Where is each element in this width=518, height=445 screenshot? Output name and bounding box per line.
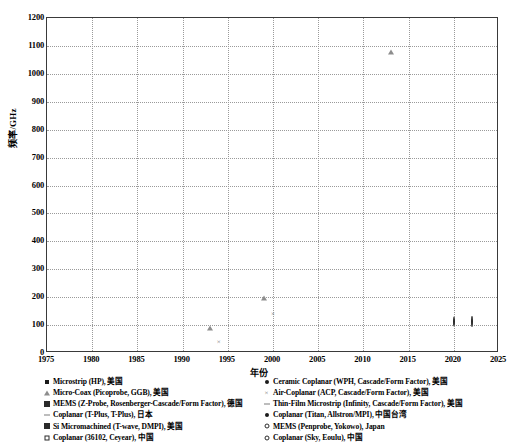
legend-label: Coplanar (Titan, Allstron/MPI), 中国台湾 [273,411,407,419]
legend-item: Coplanar (36102, Ceyear), 中国 [42,432,267,443]
y-tick-label: 700 [32,153,44,162]
x-tick-label: 1985 [116,355,156,364]
gridline-horizontal [47,130,497,131]
legend-marker [262,411,271,420]
legend-marker [42,433,51,442]
x-tick-label: 2000 [252,355,292,364]
chart-page: 频率/GHz 010020030040050060070080090010001… [0,0,518,445]
legend-marker [262,422,271,431]
gridline-horizontal [47,213,497,214]
hatched-square-marker-icon [44,423,50,429]
legend-label: Microstrip (HP), 美国 [53,378,123,386]
data-point [388,42,394,49]
y-tick-label: 1200 [28,13,44,22]
data-point: × [217,338,221,345]
y-tick-label: 200 [32,292,44,301]
legend-marker [42,377,51,386]
legend-item: Thin-Film Microstrip (Infinity, Cascade/… [262,398,518,409]
legend-marker [42,422,51,431]
y-tick-label: 600 [32,181,44,190]
x-tick-label: 2025 [478,355,518,364]
open-triangle-marker-icon [44,390,50,395]
x-tick-label: 1990 [162,355,202,364]
legend-item: Coplanar (T-Plus, T-Plus), 日本 [42,410,267,421]
data-point [261,288,267,295]
y-axis-title: 频率/GHz [6,108,19,148]
y-tick-label: 1100 [28,41,44,50]
legend-item: Coplanar (Titan, Allstron/MPI), 中国台湾 [262,410,518,421]
hatched-square-marker-icon [44,401,50,407]
gridline-vertical [454,18,455,351]
data-point [453,319,455,326]
gridline-vertical [228,18,229,351]
open-circle-marker-icon [471,317,473,327]
legend-marker [42,388,51,397]
gridline-horizontal [47,158,497,159]
gridline-horizontal [47,102,497,103]
filled-circle-marker-icon [265,380,269,384]
legend-item: ×Air-Coplanar (ACP, Cascade/Form Factor)… [262,387,518,398]
x-tick-label: 1975 [26,355,66,364]
gridline-horizontal [47,74,497,75]
x-tick-label: 1980 [71,355,111,364]
y-tick-label: 1000 [28,69,44,78]
x-tick-label: 2015 [388,355,428,364]
legend-label: Coplanar (36102, Ceyear), 中国 [53,434,154,442]
legend-marker: × [262,388,271,397]
x-cross-marker-icon: × [217,337,221,345]
filled-square-marker-icon [45,380,49,384]
y-tick-label: 800 [32,125,44,134]
legend-item: Micro-Coax (Picoprobe, GGB), 美国 [42,387,267,398]
legend-label: Coplanar (Sky, Eoulu), 中国 [273,434,363,442]
legend-item: MEMS (Z-Probe, Rosenberger-Cascade/Form … [42,398,267,409]
gridline-horizontal [47,241,497,242]
legend-label: Micro-Coax (Picoprobe, GGB), 美国 [53,389,169,397]
open-circle-marker-icon [264,435,269,440]
legend-item: Microstrip (HP), 美国 [42,376,267,387]
legend-label: Air-Coplanar (ACP, Cascade/Form Factor),… [273,389,429,397]
legend: Microstrip (HP), 美国Micro-Coax (Picoprobe… [0,376,518,445]
gridline-horizontal [47,269,497,270]
legend-label: MEMS (Z-Probe, Rosenberger-Cascade/Form … [53,400,243,408]
dash-marker-icon [264,403,270,404]
legend-marker [262,433,271,442]
y-tick-label: 100 [32,320,44,329]
gridline-vertical [137,18,138,351]
legend-label: MEMS (Penprobe, Yokowo), Japan [273,423,385,431]
legend-marker [262,377,271,386]
legend-column-left: Microstrip (HP), 美国Micro-Coax (Picoprobe… [42,376,267,443]
gridline-vertical [318,18,319,351]
gridline-vertical [183,18,184,351]
open-circle-marker-icon [453,317,455,327]
y-tick-label: 400 [32,236,44,245]
filled-circle-marker-icon [265,413,269,417]
legend-item: Si Micromachined (T-wave, DMPI), 美国 [42,421,267,432]
gridline-vertical [363,18,364,351]
open-triangle-marker-icon [261,287,267,300]
x-tick-label: 1995 [207,355,247,364]
open-triangle-marker-icon [207,318,213,331]
x-tick-label: 2020 [433,355,473,364]
data-point [471,319,473,326]
x-tick-label: 2005 [297,355,337,364]
legend-label: Coplanar (T-Plus, T-Plus), 日本 [53,411,153,419]
dash-marker-icon [44,415,50,416]
legend-marker [42,411,51,420]
legend-marker [42,399,51,408]
legend-item: MEMS (Penprobe, Yokowo), Japan [262,421,518,432]
gridline-horizontal [47,186,497,187]
legend-label: Thin-Film Microstrip (Infinity, Cascade/… [273,400,463,408]
gridline-horizontal [47,325,497,326]
gridline-vertical [273,18,274,351]
plot-area: ×× [46,17,498,352]
legend-marker [262,399,271,408]
x-tick-label: 2010 [342,355,382,364]
gridline-vertical [409,18,410,351]
y-tick-label: 500 [32,208,44,217]
legend-label: Si Micromachined (T-wave, DMPI), 美国 [53,423,183,431]
x-cross-marker-icon: × [271,309,275,317]
open-triangle-marker-icon [388,41,394,54]
x-cross-marker-icon: × [264,390,270,396]
open-square-marker-icon [44,435,49,440]
gridline-vertical [92,18,93,351]
